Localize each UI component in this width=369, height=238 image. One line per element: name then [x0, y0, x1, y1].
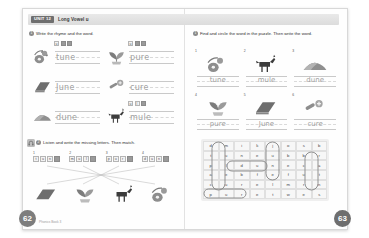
writing-lines[interactable]: pure [195, 118, 241, 131]
puzzle-cell[interactable]: i [234, 141, 250, 151]
puzzle-cell[interactable]: l [265, 180, 281, 190]
writing-lines[interactable]: tune [55, 49, 100, 65]
puzzle-cell[interactable]: e [296, 189, 312, 199]
letter-tile[interactable]: u [40, 156, 46, 162]
letter-tile[interactable] [135, 41, 140, 46]
letter-tile[interactable]: l [135, 101, 140, 106]
left-page: UNIT 12 Long Vowel u 1 Write the rhyme a… [23, 9, 185, 229]
matching-lines[interactable] [33, 165, 175, 185]
letter-tile[interactable]: u [113, 156, 119, 162]
letter-tile[interactable]: t [33, 156, 39, 162]
puzzle-cell[interactable]: b [312, 141, 328, 151]
puzzle-cell[interactable]: r [234, 180, 250, 190]
letter-tile[interactable] [61, 41, 66, 46]
letter-tile[interactable]: u [128, 41, 133, 46]
letter-tile[interactable]: d [142, 156, 148, 162]
writing-lines[interactable]: dune [55, 109, 100, 125]
letter-tile[interactable] [127, 156, 133, 162]
letter-tile[interactable] [141, 101, 146, 106]
puzzle-cell[interactable]: w [281, 189, 297, 199]
writing-lines[interactable]: tune [195, 75, 241, 88]
letter-tile[interactable] [54, 156, 60, 162]
puzzle-cell[interactable]: s [296, 141, 312, 151]
puzzle-cell[interactable]: t [265, 189, 281, 199]
puzzle-cell[interactable]: e [250, 189, 266, 199]
letter-tile[interactable]: u [149, 156, 155, 162]
picture-word-cell: 4 pure [195, 93, 241, 132]
puzzle-cell[interactable]: b [234, 170, 250, 180]
writing-lines[interactable]: dune [292, 75, 338, 88]
puzzle-cell[interactable]: e [219, 170, 235, 180]
letter-tile[interactable] [141, 41, 146, 46]
puzzle-cell[interactable]: n [312, 180, 328, 190]
puzzle-cell[interactable]: d [203, 141, 219, 151]
letter-tile[interactable]: u [76, 156, 82, 162]
letter-tile[interactable] [90, 156, 96, 162]
puzzle-cell[interactable]: o [281, 141, 297, 151]
calendar-icon[interactable] [33, 184, 59, 204]
writing-lines[interactable]: cure [292, 118, 338, 131]
puzzle-cell[interactable]: d [234, 160, 250, 170]
guitar-icon[interactable] [149, 184, 175, 204]
exercise-3-header: 2 Listen and write the missing letters. … [36, 140, 181, 146]
puzzle-cell[interactable]: u [219, 189, 235, 199]
writing-lines[interactable]: June [55, 79, 100, 95]
letter-tile[interactable]: u [54, 41, 59, 46]
puzzle-cell[interactable]: t [203, 151, 219, 161]
puzzle-cell[interactable]: n [234, 151, 250, 161]
puzzle-cell[interactable]: e [250, 151, 266, 161]
puzzle-cell[interactable]: r [234, 189, 250, 199]
puzzle-cell[interactable]: u [219, 180, 235, 190]
letter-tile[interactable]: r [120, 156, 126, 162]
letter-tile[interactable] [163, 156, 169, 162]
exercise-3-pictures [33, 184, 175, 204]
puzzle-cell[interactable]: c [203, 180, 219, 190]
puzzle-cell[interactable]: e [250, 180, 266, 190]
exercise-1-instruction: Write the rhyme and the word. [36, 31, 93, 37]
puzzle-cell[interactable]: n [265, 160, 281, 170]
puzzle-cell[interactable]: u [296, 170, 312, 180]
letter-tile[interactable]: n [47, 156, 53, 162]
letter-tile[interactable]: n [156, 156, 162, 162]
puzzle-cell[interactable]: r [296, 180, 312, 190]
puzzle-cell[interactable]: f [250, 170, 266, 180]
handwritten-word: tune [56, 52, 75, 63]
puzzle-cell[interactable]: a [312, 160, 328, 170]
puzzle-cell[interactable]: b [296, 151, 312, 161]
puzzle-cell[interactable]: m [281, 180, 297, 190]
puzzle-grid[interactable]: d m i k j o s b t u n e u b b r p l d u [203, 141, 327, 199]
puzzle-cell[interactable]: f [281, 170, 297, 180]
puzzle-cell[interactable]: p [203, 160, 219, 170]
writing-lines[interactable]: mule [244, 75, 290, 88]
puzzle-cell[interactable]: u [250, 160, 266, 170]
puzzle-cell[interactable]: r [312, 151, 328, 161]
word-search-puzzle[interactable]: d m i k j o s b t u n e u b b r p l d u [201, 139, 329, 201]
writing-lines[interactable]: mule [129, 109, 174, 125]
mule-icon[interactable] [110, 184, 136, 204]
writing-lines[interactable]: cure [129, 79, 174, 95]
letter-tile[interactable] [67, 41, 72, 46]
puzzle-cell[interactable]: b [281, 151, 297, 161]
letter-tile[interactable]: u [128, 101, 133, 106]
puzzle-cell[interactable]: e [265, 170, 281, 180]
letter-tile[interactable]: l [83, 156, 89, 162]
letter-tile[interactable]: p [106, 156, 112, 162]
puzzle-cell[interactable]: u [219, 151, 235, 161]
letter-tile[interactable]: m [69, 156, 75, 162]
puzzle-cell[interactable]: u [265, 151, 281, 161]
writing-lines[interactable]: pure [129, 49, 174, 65]
puzzle-cell[interactable]: p [203, 189, 219, 199]
puzzle-cell[interactable]: t [312, 170, 328, 180]
puzzle-cell[interactable]: j [265, 141, 281, 151]
puzzle-cell[interactable]: e [281, 160, 297, 170]
exercise-2-header: 1 Find and circle the word in the puzzle… [193, 31, 343, 37]
puzzle-cell[interactable]: l [219, 160, 235, 170]
puzzle-cell[interactable]: m [219, 141, 235, 151]
plant-icon[interactable] [72, 184, 98, 204]
puzzle-cell[interactable]: k [250, 141, 266, 151]
puzzle-cell[interactable]: a [203, 170, 219, 180]
writing-lines[interactable]: June [244, 118, 290, 131]
puzzle-cell[interactable]: s [312, 189, 328, 199]
puzzle-cell[interactable]: c [296, 160, 312, 170]
worksheet-spread: UNIT 12 Long Vowel u 1 Write the rhyme a… [22, 8, 348, 230]
